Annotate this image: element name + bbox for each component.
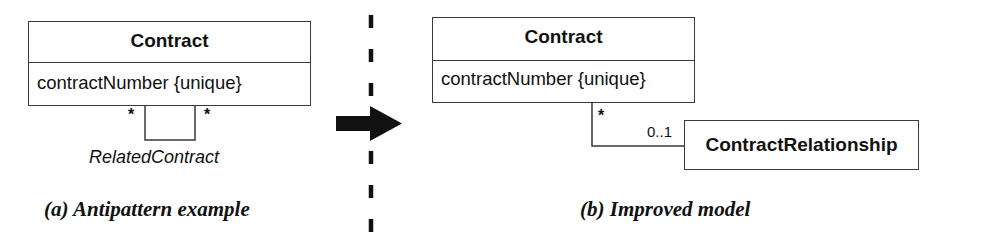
multiplicity-right: * <box>204 106 210 124</box>
self-association-line <box>145 105 195 140</box>
class-name: ContractRelationship <box>685 134 918 156</box>
contract-relationship-class-box: ContractRelationship <box>684 120 919 170</box>
class-name: Contract <box>29 30 310 52</box>
contract-class-box-b: Contract contractNumber {unique} <box>432 17 695 103</box>
class-attribute: contractNumber {unique} <box>37 72 242 94</box>
class-divider <box>433 60 694 61</box>
multiplicity-relationship-end: 0..1 <box>647 123 672 140</box>
multiplicity-left: * <box>128 106 134 124</box>
class-attribute: contractNumber {unique} <box>441 68 646 90</box>
multiplicity-contract-end: * <box>598 107 604 125</box>
caption-a: (a) Antipattern example <box>44 197 250 222</box>
diagram-canvas: Contract contractNumber {unique} * * Rel… <box>0 0 983 242</box>
class-divider <box>29 62 310 63</box>
contract-class-box-a: Contract contractNumber {unique} <box>28 21 311 106</box>
class-name: Contract <box>433 26 694 48</box>
right-arrow-icon <box>336 106 402 141</box>
caption-b: (b) Improved model <box>580 197 750 222</box>
association-name: RelatedContract <box>89 147 219 168</box>
